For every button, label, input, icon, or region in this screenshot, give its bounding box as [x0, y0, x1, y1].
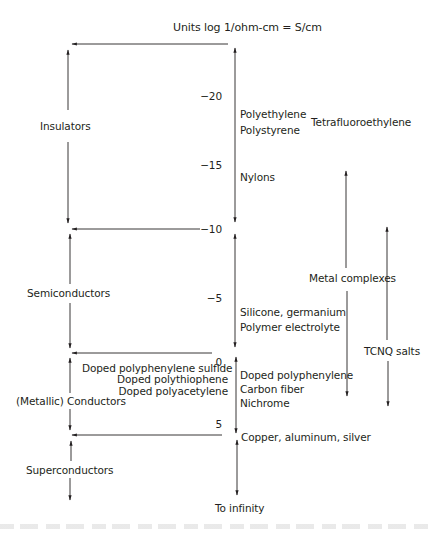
tick-label: 5	[196, 419, 222, 430]
tick-label: −10	[196, 224, 222, 235]
material-label: Polymer electrolyte	[240, 322, 340, 333]
material-label: Doped polythiophene	[100, 374, 228, 385]
metal-complexes-label: Metal complexes	[309, 273, 396, 284]
material-label: Tetrafluoroethylene	[311, 117, 411, 128]
material-label: Polystyrene	[240, 125, 300, 136]
category-semiconductors: Semiconductors	[27, 288, 110, 299]
material-label: Silicone, germanium	[240, 307, 346, 318]
material-label: Doped polyphenylene	[240, 370, 353, 381]
units-title: Units log 1/ohm-cm = S/cm	[173, 22, 322, 33]
material-label: Carbon fiber	[240, 384, 304, 395]
tick-label: −15	[196, 160, 222, 171]
tick-label: −20	[196, 91, 222, 102]
tick-label: −5	[196, 293, 222, 304]
tcnq-salts-label: TCNQ salts	[364, 346, 420, 357]
material-label: Copper, aluminum, silver	[241, 432, 371, 443]
diagram-lines	[0, 0, 433, 534]
bleed-through-text	[0, 524, 433, 529]
material-label: Doped polyacetylene	[100, 386, 228, 397]
material-label: Doped polyphenylene sulfide	[82, 363, 232, 374]
category-conductors: (Metallic) Conductors	[16, 396, 126, 407]
category-insulators: Insulators	[40, 121, 91, 132]
category-superconductors: Superconductors	[26, 465, 113, 476]
material-label: Nichrome	[240, 398, 290, 409]
axis-end-label: To infinity	[215, 503, 264, 514]
material-label: Polyethylene	[240, 109, 306, 120]
material-label: Nylons	[240, 172, 275, 183]
